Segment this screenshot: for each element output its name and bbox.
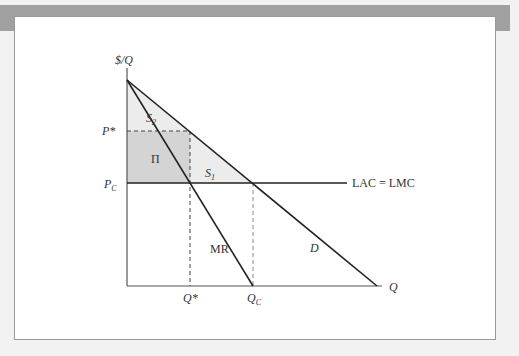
q-c-label: QC xyxy=(247,291,262,307)
q-star-label: Q* xyxy=(183,291,198,305)
cost-label: LAC = LMC xyxy=(352,176,415,190)
x-axis-label: Q xyxy=(389,280,398,294)
monopoly-diagram: $/Q Q P* PC Q* QC S2 S1 Π MR D LAC = LMC xyxy=(0,0,519,356)
profit-label: Π xyxy=(151,152,160,166)
y-axis-label: $/Q xyxy=(115,53,133,67)
p-star-label: P* xyxy=(101,124,115,138)
p-c-label: PC xyxy=(103,177,117,193)
mr-label: MR xyxy=(210,242,229,256)
demand-label: D xyxy=(309,241,319,255)
